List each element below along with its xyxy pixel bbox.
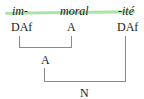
- category-im: DAf: [11, 21, 32, 33]
- bracket-line-n: [44, 81, 126, 82]
- node-label-a: A: [41, 54, 50, 66]
- category-ite: DAf: [117, 21, 138, 33]
- category-moral: A: [67, 21, 76, 33]
- morpheme-moral: moral: [60, 5, 89, 17]
- branch-line-ite: [125, 36, 126, 82]
- branch-line-a: [44, 68, 45, 82]
- bracket-line-a: [19, 47, 72, 48]
- node-label-n: N: [80, 87, 89, 99]
- morpheme-ite: -ité: [118, 5, 134, 17]
- morpheme-im: im-: [12, 5, 28, 17]
